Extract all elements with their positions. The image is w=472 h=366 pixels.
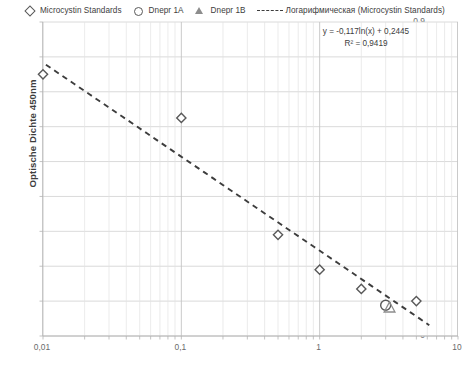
legend-label: Dnepr 1A [149, 6, 184, 15]
chart-legend: Microcystin Standards Dnepr 1A Dnepr 1B … [24, 3, 468, 18]
y-axis-title: Optische Dichte 450nm [27, 54, 38, 214]
legend-label: Dnepr 1B [211, 6, 246, 15]
circle-marker-icon [133, 5, 144, 16]
legend-item-dnepr-1b[interactable]: Dnepr 1B [195, 5, 246, 16]
data-point-marker [38, 70, 47, 79]
legend-item-microcystin-standards[interactable]: Microcystin Standards [24, 5, 122, 16]
data-point-marker [177, 113, 186, 122]
triangle-marker-icon [195, 5, 206, 16]
legend-label: Microcystin Standards [40, 6, 122, 15]
data-point-marker [357, 284, 366, 293]
plot-area [42, 22, 457, 336]
r-squared-text: R² = 0,9419 [296, 38, 436, 50]
dashed-line-icon [257, 5, 283, 16]
data-series [38, 70, 421, 312]
x-axis-tick-label: 10 [437, 343, 472, 351]
x-axis-tick-label: 0,1 [160, 343, 200, 351]
trendline-equation-annotation: y = -0,117ln(x) + 0,2445 R² = 0,9419 [296, 26, 436, 50]
equation-text: y = -0,117ln(x) + 0,2445 [296, 26, 436, 38]
legend-item-trendline[interactable]: Логарифмическая (Microcystin Standards) [257, 5, 445, 16]
vertical-gridlines [43, 22, 458, 336]
x-axis-tick-label: 0,01 [22, 343, 62, 351]
legend-label: Логарифмическая (Microcystin Standards) [286, 6, 445, 15]
trendline [46, 65, 429, 325]
legend-item-dnepr-1a[interactable]: Dnepr 1A [133, 5, 184, 16]
x-axis-tick-label: 1 [299, 343, 339, 351]
horizontal-gridlines [43, 22, 458, 336]
data-point-marker [412, 297, 421, 306]
plot-svg [43, 22, 458, 336]
axis-tick-marks [40, 22, 459, 340]
diamond-marker-icon [24, 5, 35, 16]
chart-container: Microcystin Standards Dnepr 1A Dnepr 1B … [0, 0, 472, 366]
